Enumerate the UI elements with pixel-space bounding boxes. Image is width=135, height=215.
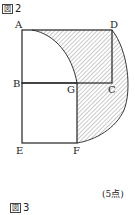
figure-label-box: 図 <box>10 203 21 213</box>
figure-3-title: 図3 <box>10 203 29 213</box>
point-label-a: A <box>15 20 22 30</box>
points-note: (5点) <box>102 187 124 200</box>
point-label-c: C <box>108 85 116 95</box>
geometry-diagram <box>0 0 135 215</box>
point-label-b: B <box>13 79 20 89</box>
point-label-d: D <box>110 20 118 30</box>
point-label-e: E <box>16 146 23 156</box>
point-label-g: G <box>67 85 75 95</box>
point-label-f: F <box>73 146 80 156</box>
figure-number: 3 <box>23 202 29 213</box>
